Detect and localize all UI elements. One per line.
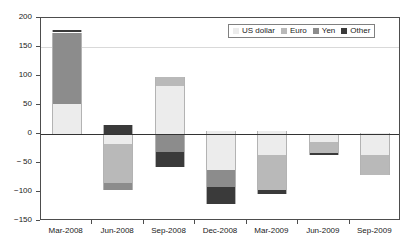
x-axis-tick-label: Dec-2008 bbox=[194, 226, 245, 246]
bar-segment[interactable] bbox=[360, 134, 390, 155]
bar-group[interactable] bbox=[257, 18, 287, 219]
y-axis: 200150100500− 50−100−150 bbox=[0, 0, 40, 252]
legend-swatch-icon bbox=[313, 28, 319, 34]
bar-segment[interactable] bbox=[309, 142, 339, 153]
y-axis-tick-mark bbox=[36, 220, 40, 221]
bar-segment[interactable] bbox=[360, 155, 390, 175]
bar-segment[interactable] bbox=[309, 134, 339, 142]
y-axis-tick-label: − 50 bbox=[17, 158, 32, 166]
bar-segment[interactable] bbox=[155, 134, 185, 152]
x-axis-tick-mark bbox=[194, 220, 195, 224]
x-axis-tick-mark bbox=[143, 220, 144, 224]
bar-group[interactable] bbox=[155, 18, 185, 219]
bar-segment[interactable] bbox=[155, 152, 185, 167]
legend-swatch-icon bbox=[281, 28, 287, 34]
y-axis-tick-mark bbox=[36, 162, 40, 163]
y-axis-tick-mark bbox=[36, 46, 40, 47]
x-axis: Mar-2008Jun-2008Sep-2008Dec-2008Mar-2009… bbox=[40, 226, 400, 246]
x-axis-tick-label: Sep-2008 bbox=[143, 226, 194, 246]
x-axis-tick-mark bbox=[297, 220, 298, 224]
x-axis-tick-mark bbox=[349, 220, 350, 224]
y-axis-tick-label: 0 bbox=[28, 129, 32, 137]
bar-segment[interactable] bbox=[103, 125, 133, 134]
legend-item[interactable]: Yen bbox=[313, 27, 336, 35]
bar-group[interactable] bbox=[103, 18, 133, 219]
bars-layer bbox=[41, 18, 399, 219]
x-axis-tick-label: Jun-2008 bbox=[91, 226, 142, 246]
plot-area bbox=[40, 17, 400, 220]
bar-segment[interactable] bbox=[155, 86, 185, 134]
bar-segment[interactable] bbox=[206, 134, 236, 170]
x-axis-tick-mark bbox=[91, 220, 92, 224]
bar-group[interactable] bbox=[309, 18, 339, 219]
chart-legend: US dollarEuroYenOther bbox=[228, 24, 375, 38]
legend-item[interactable]: Other bbox=[341, 27, 370, 35]
bar-segment[interactable] bbox=[52, 104, 82, 134]
legend-label: US dollar bbox=[242, 27, 275, 35]
y-axis-tick-mark bbox=[36, 17, 40, 18]
bar-segment[interactable] bbox=[206, 187, 236, 204]
bar-group[interactable] bbox=[206, 18, 236, 219]
y-axis-tick-label: −150 bbox=[14, 216, 32, 224]
legend-swatch-icon bbox=[233, 28, 239, 34]
bar-segment[interactable] bbox=[52, 33, 82, 104]
legend-label: Other bbox=[350, 27, 370, 35]
y-axis-tick-mark bbox=[36, 133, 40, 134]
y-axis-tick-label: −100 bbox=[14, 187, 32, 195]
bar-segment[interactable] bbox=[309, 153, 339, 155]
bar-chart: 200150100500− 50−100−150 Mar-2008Jun-200… bbox=[0, 0, 411, 252]
bar-group[interactable] bbox=[52, 18, 82, 219]
bar-segment[interactable] bbox=[103, 183, 133, 190]
legend-item[interactable]: US dollar bbox=[233, 27, 275, 35]
legend-swatch-icon bbox=[341, 28, 347, 34]
y-axis-tick-mark bbox=[36, 104, 40, 105]
x-axis-tick-mark bbox=[246, 220, 247, 224]
bar-segment[interactable] bbox=[257, 190, 287, 194]
y-axis-tick-label: 100 bbox=[19, 71, 32, 79]
bar-segment[interactable] bbox=[206, 170, 236, 187]
bar-segment[interactable] bbox=[103, 134, 133, 144]
y-axis-tick-mark bbox=[36, 191, 40, 192]
legend-item[interactable]: Euro bbox=[281, 27, 307, 35]
y-axis-tick-label: 200 bbox=[19, 13, 32, 21]
zero-baseline bbox=[41, 134, 399, 135]
bar-group[interactable] bbox=[360, 18, 390, 219]
x-axis-tick-label: Mar-2009 bbox=[246, 226, 297, 246]
y-axis-tick-label: 50 bbox=[23, 100, 32, 108]
y-axis-tick-label: 150 bbox=[19, 42, 32, 50]
bar-segment[interactable] bbox=[155, 77, 185, 87]
bar-segment[interactable] bbox=[103, 144, 133, 183]
x-axis-tick-label: Mar-2008 bbox=[40, 226, 91, 246]
bar-segment[interactable] bbox=[52, 30, 82, 33]
bar-segment[interactable] bbox=[257, 155, 287, 190]
y-axis-tick-mark bbox=[36, 75, 40, 76]
x-axis-tick-label: Sep-2009 bbox=[349, 226, 400, 246]
legend-label: Euro bbox=[290, 27, 307, 35]
bar-segment[interactable] bbox=[257, 134, 287, 155]
legend-label: Yen bbox=[322, 27, 336, 35]
x-axis-tick-label: Jun-2009 bbox=[297, 226, 348, 246]
